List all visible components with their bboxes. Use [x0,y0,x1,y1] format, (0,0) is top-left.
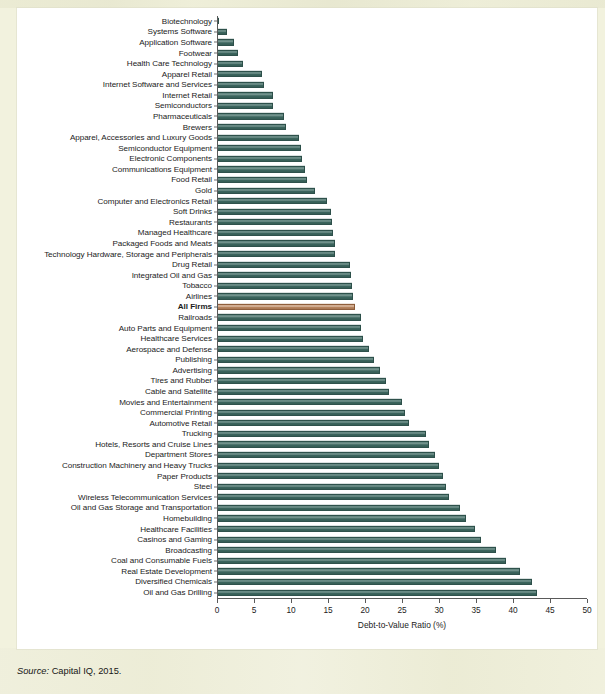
bar-row: Integrated Oil and Gas [17,270,597,281]
bar-cell [217,291,597,302]
category-label: Semiconductor Equipment [17,144,217,153]
x-axis-tick [328,599,329,603]
bar-cell [217,577,597,588]
bar-cell [217,587,597,598]
category-label: Systems Software [17,27,217,36]
bar [217,547,496,553]
category-label: Cable and Satellite [17,387,217,396]
category-label: Application Software [17,38,217,47]
x-axis-tick-label: 25 [397,605,406,615]
bar-cell [217,37,597,48]
category-label: Steel [17,482,217,491]
category-label: Homebuilding [17,514,217,523]
bar-row: Railroads [17,312,597,323]
x-axis-tick-label: 0 [215,605,220,615]
bar [217,304,355,310]
bar-cell [217,492,597,503]
category-label: Managed Healthcare [17,228,217,237]
bar-row: Hotels, Resorts and Cruise Lines [17,439,597,450]
page-bleed-top [0,0,605,8]
bar [217,558,506,564]
bar [217,187,315,193]
category-label: Hotels, Resorts and Cruise Lines [17,440,217,449]
bar-row: Construction Machinery and Heavy Trucks [17,460,597,471]
category-label: Electronic Components [17,154,217,163]
bar [217,71,262,77]
category-label: Health Care Technology [17,59,217,68]
bar-row: Technology Hardware, Storage and Periphe… [17,249,597,260]
bar [217,240,335,246]
bar [217,568,520,574]
bar-row: Casinos and Gaming [17,534,597,545]
category-label: Trucking [17,429,217,438]
bar [217,124,286,130]
bar [217,166,305,172]
bar-cell [217,259,597,270]
bar [217,484,446,490]
bar-cell [217,16,597,27]
bar-cell [217,143,597,154]
bar-cell [217,365,597,376]
bar-row: Semiconductor Equipment [17,143,597,154]
bar-row: Biotechnology [17,16,597,27]
bar [217,515,466,521]
category-label: Tires and Rubber [17,376,217,385]
bar-cell [217,164,597,175]
bar-row: Automotive Retail [17,418,597,429]
bar [217,462,439,468]
bar [217,336,363,342]
bar [217,29,227,35]
bar [217,420,409,426]
bar-cell [217,249,597,260]
category-label: Internet Retail [17,91,217,100]
bar-row: Diversified Chemicals [17,577,597,588]
bar-cell [217,228,597,239]
category-label: Soft Drinks [17,207,217,216]
bar-row: Footwear [17,48,597,59]
bar-cell [217,376,597,387]
category-label: Biotechnology [17,17,217,26]
x-axis-tick-label: 40 [508,605,517,615]
bar-cell [217,196,597,207]
x-axis-tick-label: 5 [252,605,257,615]
bar [217,198,327,204]
bar [217,579,532,585]
bar [217,156,302,162]
bar [217,283,352,289]
bar-cell [217,355,597,366]
category-label: Drug Retail [17,260,217,269]
bar-row: Internet Software and Services [17,79,597,90]
source-text: Capital IQ, 2015. [49,666,121,676]
bar-row: Auto Parts and Equipment [17,323,597,334]
bar-cell [217,534,597,545]
bar-row: Pharmaceuticals [17,111,597,122]
bar-cell [217,503,597,514]
bar-row: Airlines [17,291,597,302]
bar-cell [217,407,597,418]
bar [217,388,389,394]
bar-cell [217,302,597,313]
bar-row: Broadcasting [17,545,597,556]
bar-cell [217,524,597,535]
bar [217,219,332,225]
bar-row: Wireless Telecommunication Services [17,492,597,503]
category-label: Healthcare Facilities [17,525,217,534]
bar-row: Cable and Satellite [17,386,597,397]
bar-row: Coal and Consumable Fuels [17,555,597,566]
bar-row: Tires and Rubber [17,376,597,387]
bar-row: Restaurants [17,217,597,228]
bar-row: Homebuilding [17,513,597,524]
category-label: Advertising [17,366,217,375]
x-axis-tick [291,599,292,603]
bar [217,441,429,447]
bar-rows: BiotechnologySystems SoftwareApplication… [17,16,597,598]
bar-cell [217,132,597,143]
category-label: Footwear [17,49,217,58]
bar-row: Commercial Printing [17,407,597,418]
category-label: Oil and Gas Storage and Transportation [17,503,217,512]
bar [217,431,426,437]
category-label: Gold [17,186,217,195]
bar [217,251,335,257]
x-axis-tick-label: 10 [286,605,295,615]
bar-cell [217,545,597,556]
